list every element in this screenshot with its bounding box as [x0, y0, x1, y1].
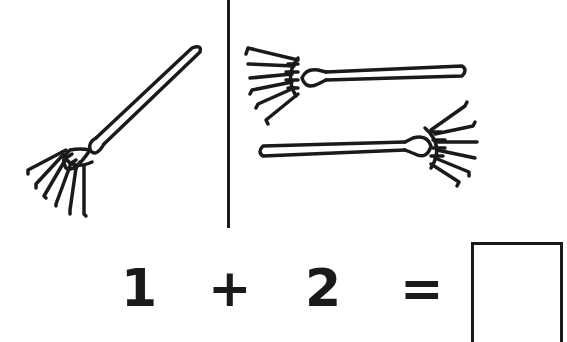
left-operand: 1: [121, 258, 157, 318]
rake-icon-right-bottom: [255, 120, 480, 190]
plus-operator: +: [208, 258, 252, 318]
rake-icon-left: [0, 0, 230, 230]
right-operand: 2: [305, 258, 341, 318]
answer-input-box[interactable]: [471, 242, 563, 342]
equals-sign: =: [400, 258, 444, 318]
panel-divider: [227, 0, 230, 228]
rake-icon-right-top: [240, 40, 470, 100]
